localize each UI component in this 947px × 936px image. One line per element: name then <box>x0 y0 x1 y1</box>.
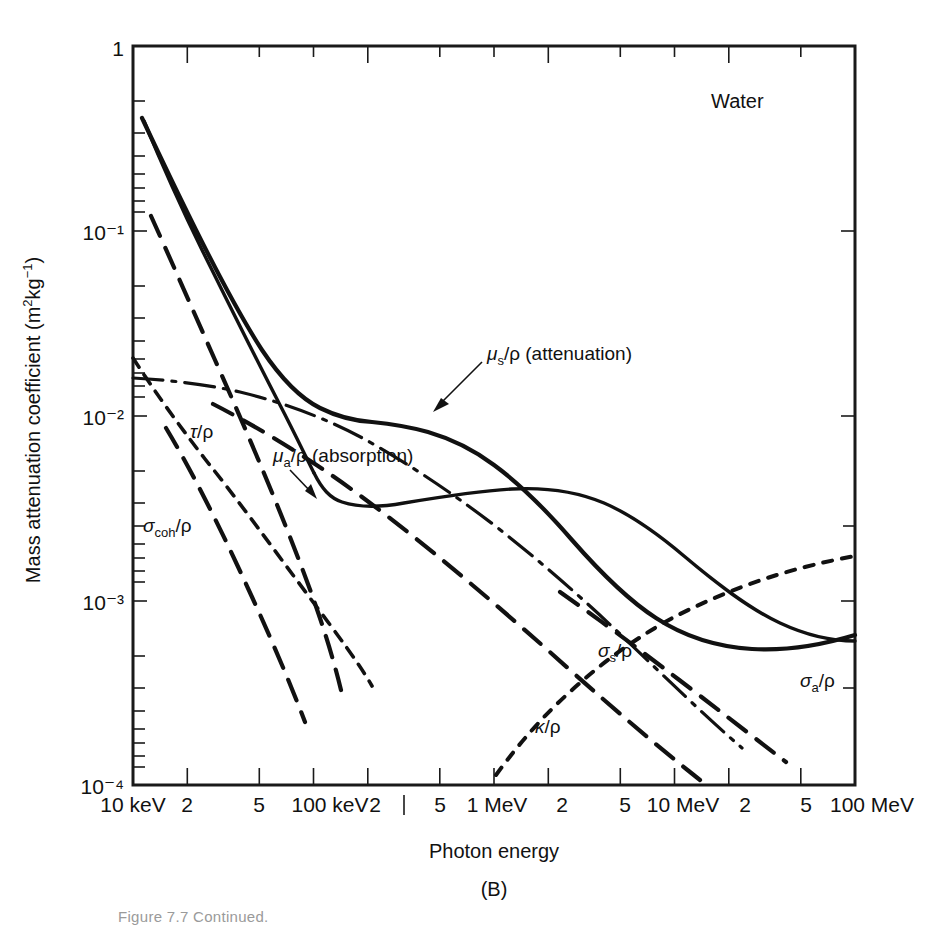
y-tick-label-1e-1: 10⁻¹ <box>83 221 124 244</box>
mu-s-rest: /ρ (attenuation) <box>504 343 632 364</box>
x-tick-label-1mev: 1 MeV <box>467 793 528 816</box>
panel-label: (B) <box>481 878 508 900</box>
y-axis-title-kg: kg <box>22 278 44 299</box>
x-tick-label-200kev: 2 <box>369 793 381 816</box>
x-axis-tick-labels: 10 keV 2 5 100 keV 2 5 1 MeV 2 5 10 MeV … <box>100 793 914 816</box>
svg-text:Mass attenuation coefficient (: Mass attenuation coefficient (m2kg−1) <box>20 257 44 583</box>
material-label: Water <box>711 90 764 112</box>
mu-glyph: μ <box>486 343 498 364</box>
annotation-mu-s-rho-text: μs/ρ (attenuation) <box>486 343 632 368</box>
sigma-s-rest: /ρ <box>616 640 632 661</box>
figure-container: 1 10⁻¹ 10⁻² 10⁻³ 10⁻⁴ 10 keV 2 5 100 keV… <box>0 0 947 936</box>
x-tick-label-500kev: 5 <box>434 793 446 816</box>
annotation-mu-a-rho: μa/ρ (absorption) <box>272 445 413 499</box>
figure-caption: Figure 7.7 Continued. <box>118 908 269 934</box>
annotation-sigma-coh-rho: σcoh/ρ <box>143 515 192 540</box>
y-axis-title-text: Mass attenuation coefficient (m <box>22 307 44 583</box>
curve-sigma-coh-rho <box>133 358 372 686</box>
mu-a-rest: /ρ (absorption) <box>291 445 414 466</box>
sigma-a-rest: /ρ <box>819 670 835 691</box>
x-tick-label-20mev: 2 <box>739 793 751 816</box>
curve-mu-s-rho <box>142 118 855 649</box>
annotation-mu-a-rho-text: μa/ρ (absorption) <box>272 445 413 470</box>
y-tick-label-1e-3: 10⁻³ <box>83 591 124 614</box>
kappa-rest: /ρ <box>545 716 561 737</box>
sigma-coh-subscript: coh <box>154 525 175 540</box>
y-axis-ticks <box>133 46 855 767</box>
x-tick-label-50mev: 5 <box>800 793 812 816</box>
x-tick-label-5mev: 5 <box>619 793 631 816</box>
y-tick-label-1: 1 <box>112 37 124 60</box>
annotation-sigma-a-rho: σa/ρ <box>800 670 835 695</box>
curve-mu-a-rho <box>144 121 855 641</box>
x-axis-ticks <box>187 46 801 785</box>
tau-rest: /ρ <box>197 421 213 442</box>
y-axis-tick-labels: 1 10⁻¹ 10⁻² 10⁻³ 10⁻⁴ <box>81 37 124 798</box>
leader-arrowhead-mu-a <box>305 484 317 499</box>
x-tick-label-100mev: 100 MeV <box>830 793 914 816</box>
x-axis-title: Photon energy <box>429 840 559 862</box>
y-tick-label-1e-2: 10⁻² <box>83 406 124 429</box>
x-tick-label-100kev: 100 keV <box>291 793 368 816</box>
x-tick-label-10mev: 10 MeV <box>647 793 719 816</box>
x-tick-label-50kev: 5 <box>253 793 265 816</box>
curve-kappa-rho <box>496 556 855 775</box>
leader-arrowhead-mu-s <box>433 398 449 412</box>
annotation-mu-s-rho: μs/ρ (attenuation) <box>433 343 632 412</box>
annotation-tau-rho: τ/ρ <box>190 421 213 442</box>
y-axis-title-sup-2: 2 <box>20 299 35 306</box>
mass-attenuation-chart: 1 10⁻¹ 10⁻² 10⁻³ 10⁻⁴ 10 keV 2 5 100 keV… <box>0 0 947 936</box>
x-tick-label-2mev: 2 <box>556 793 568 816</box>
y-axis-title-sup-neg1: −1 <box>20 264 35 279</box>
y-axis-title: Mass attenuation coefficient (m2kg−1) <box>20 257 44 583</box>
annotation-kappa-rho: κ/ρ <box>535 716 561 737</box>
y-axis-title-paren: ) <box>22 257 44 264</box>
x-tick-label-20kev: 2 <box>181 793 193 816</box>
x-tick-label-10kev: 10 keV <box>100 793 165 816</box>
mu-a-glyph: μ <box>272 445 284 466</box>
sigma-coh-rest: /ρ <box>175 515 191 536</box>
